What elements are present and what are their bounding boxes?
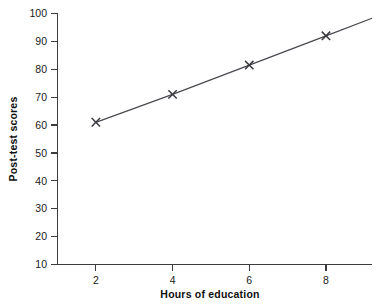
x-tick-label: 6 (246, 274, 252, 286)
x-tick-label: 4 (170, 274, 176, 286)
x-axis-ticks (96, 265, 326, 272)
y-tick-label: 100 (29, 7, 47, 19)
y-tick-label: 60 (35, 119, 47, 131)
y-axis-title: Post-test scores (7, 97, 19, 182)
data-point-markers (92, 32, 331, 127)
y-tick-label: 10 (35, 258, 47, 270)
y-tick-label: 50 (35, 147, 47, 159)
data-point-marker (245, 61, 253, 69)
y-tick-label: 40 (35, 175, 47, 187)
data-point-marker (322, 32, 330, 40)
x-axis-tick-labels: 2468 (93, 274, 329, 286)
data-point-marker (92, 118, 100, 126)
line-chart-plot: 102030405060708090100 2468 Post-test sco… (0, 0, 378, 307)
y-tick-label: 20 (35, 230, 47, 242)
y-tick-label: 30 (35, 202, 47, 214)
y-tick-label: 80 (35, 63, 47, 75)
series-line (96, 18, 372, 122)
x-axis-title: Hours of education (160, 288, 259, 300)
y-tick-label: 70 (35, 91, 47, 103)
y-axis-tick-labels: 102030405060708090100 (29, 7, 47, 270)
chart-container: 102030405060708090100 2468 Post-test sco… (0, 0, 378, 307)
y-axis-ticks (51, 14, 58, 265)
y-tick-label: 90 (35, 35, 47, 47)
x-tick-label: 8 (323, 274, 329, 286)
data-point-marker (168, 90, 176, 98)
x-tick-label: 2 (93, 274, 99, 286)
